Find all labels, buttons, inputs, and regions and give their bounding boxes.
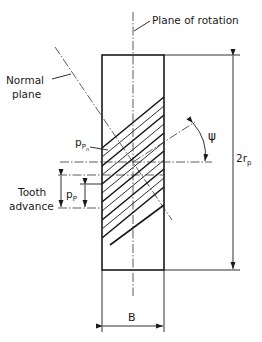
plane-of-rotation-leader <box>134 21 150 31</box>
plane-of-rotation-label: Plane of rotation <box>152 14 239 26</box>
pp-sub: P <box>73 195 77 203</box>
diameter-sub: p <box>247 159 252 167</box>
pitch-lines <box>102 106 164 229</box>
ppn-leader <box>90 147 108 150</box>
tooth-advance-label-2: advance <box>9 200 54 212</box>
ppn-label: pPn <box>75 136 89 152</box>
normal-plane-label-1: Normal <box>6 74 44 86</box>
normal-plane-leader <box>52 74 71 79</box>
helical-gear-diagram: Plane of rotation Normal plane Tooth adv… <box>0 0 262 342</box>
diameter-main: 2r <box>236 152 248 164</box>
width-label: B <box>128 311 136 324</box>
psi-angle-arc <box>193 123 206 161</box>
pp-label: pP <box>66 188 77 203</box>
psi-label: ψ <box>208 129 216 143</box>
tooth-advance-label-1: Tooth <box>17 186 46 198</box>
ppn-sub2: n <box>86 146 89 152</box>
normal-plane-label-2: plane <box>12 88 41 100</box>
diameter-label: 2rp <box>236 152 252 167</box>
